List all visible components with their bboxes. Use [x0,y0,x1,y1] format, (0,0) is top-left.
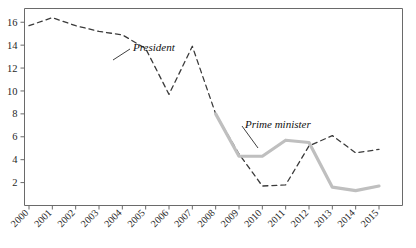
annotation-leader-line [113,49,130,60]
y-axis-tick-label: 4 [12,154,18,165]
chart-figure: 2468101214162000200120022003200420052006… [0,0,416,248]
x-axis-tick-label: 2000 [8,207,30,229]
x-axis-tick-label: 2015 [358,207,380,229]
series-annotation-label: Prime minister [244,118,311,130]
x-axis-tick-label: 2006 [148,207,170,229]
x-axis-tick-label: 2002 [55,207,77,229]
x-axis-tick-label: 2004 [102,207,124,229]
x-axis-tick-label: 2008 [195,207,217,229]
series-annotation-label: President [132,41,176,53]
y-axis-tick-label: 2 [12,177,17,188]
x-axis-tick-label: 2011 [265,207,287,229]
line-chart: 2468101214162000200120022003200420052006… [0,0,416,248]
x-axis-tick-label: 2003 [78,207,100,229]
y-axis-tick-label: 6 [12,131,17,142]
y-axis-tick-label: 8 [12,108,17,119]
y-axis-tick-label: 16 [7,17,18,28]
x-axis-tick-label: 2005 [125,207,147,229]
x-axis-tick-label: 2001 [32,207,54,229]
x-axis-tick-label: 2009 [218,207,240,229]
x-axis-tick-label: 2010 [242,207,264,229]
x-axis-tick-label: 2012 [288,207,310,229]
y-axis-tick-label: 10 [7,86,18,97]
x-axis-tick-label: 2013 [312,207,334,229]
x-axis-tick-label: 2007 [172,207,194,229]
series-line-president [29,18,379,186]
x-axis-tick-label: 2014 [335,207,357,229]
y-axis-tick-label: 14 [7,40,18,51]
y-axis-tick-label: 12 [7,63,18,74]
